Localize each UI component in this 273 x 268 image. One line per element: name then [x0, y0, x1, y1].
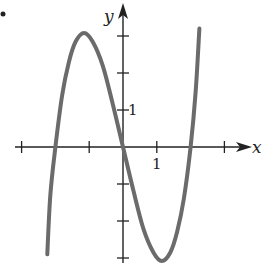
y-tick-label-1: 1: [128, 101, 138, 119]
x-tick-label-1: 1: [152, 155, 162, 173]
y-axis-label: y: [103, 6, 114, 26]
cubic-function-graph: x y 1 1: [0, 0, 273, 268]
x-axis-label: x: [252, 137, 262, 157]
bullet-marker: [1, 12, 6, 17]
